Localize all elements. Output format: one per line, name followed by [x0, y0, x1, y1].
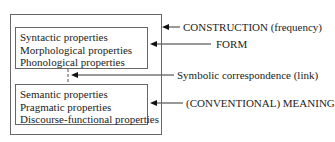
form-properties-list: Syntactic properties Morphological prope… — [20, 31, 132, 69]
meaning-properties-list: Semantic properties Pragmatic properties… — [20, 88, 159, 126]
construction-arrow-icon — [162, 24, 169, 30]
meaning-box: Semantic properties Pragmatic properties… — [15, 84, 148, 125]
construction-label: CONSTRUCTION (frequency) — [183, 21, 322, 33]
list-item: Morphological properties — [20, 44, 132, 57]
meaning-label: (CONVENTIONAL) MEANING — [186, 97, 335, 109]
link-label: Symbolic correspondence (link) — [177, 69, 318, 81]
list-item: Discourse-functional properties — [20, 113, 159, 126]
form-label: FORM — [216, 38, 247, 50]
form-box: Syntactic properties Morphological prope… — [15, 27, 148, 69]
list-item: Semantic properties — [20, 88, 159, 101]
list-item: Phonological properties — [20, 56, 132, 69]
list-item: Pragmatic properties — [20, 101, 159, 114]
list-item: Syntactic properties — [20, 31, 132, 44]
